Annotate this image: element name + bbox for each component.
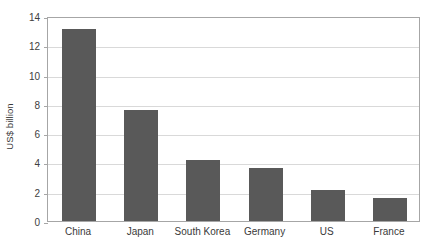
x-tick-label: US	[320, 226, 334, 237]
bar-slot	[359, 18, 421, 221]
bar[interactable]	[311, 190, 345, 221]
y-tick-label: 0	[34, 217, 40, 228]
y-tick-label: 2	[34, 187, 40, 198]
bar-chart: US$ billion 02468101214 ChinaJapanSouth …	[0, 0, 436, 252]
plot-area	[47, 17, 420, 222]
x-axis-category-labels: ChinaJapanSouth KoreaGermanyUSFrance	[47, 224, 420, 246]
bars-layer	[48, 18, 419, 221]
bar-slot	[235, 18, 297, 221]
bar[interactable]	[186, 160, 220, 222]
y-tick-label: 4	[34, 158, 40, 169]
bar-slot	[110, 18, 172, 221]
y-axis-title-label: US$ billion	[4, 103, 15, 150]
x-tick-label: France	[373, 226, 404, 237]
bar[interactable]	[373, 198, 407, 221]
bar[interactable]	[249, 168, 283, 221]
x-tick-label: South Korea	[175, 226, 231, 237]
y-tick-label: 6	[34, 129, 40, 140]
y-axis-tick-labels: 02468101214	[18, 17, 44, 222]
bar[interactable]	[124, 110, 158, 221]
y-tick-label: 14	[29, 12, 40, 23]
y-tick-label: 10	[29, 70, 40, 81]
y-tick-label: 12	[29, 41, 40, 52]
bar-slot	[48, 18, 110, 221]
y-tick-label: 8	[34, 99, 40, 110]
x-tick-label: China	[65, 226, 91, 237]
bar[interactable]	[62, 29, 96, 221]
y-axis-title: US$ billion	[0, 0, 18, 252]
x-tick-label: Germany	[244, 226, 285, 237]
bar-slot	[172, 18, 234, 221]
x-tick-label: Japan	[127, 226, 154, 237]
bar-slot	[297, 18, 359, 221]
